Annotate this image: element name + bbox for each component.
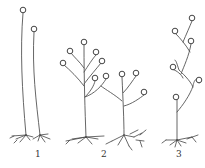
panel-1-sporangiophores — [10, 7, 50, 143]
diagram-canvas — [0, 0, 205, 168]
panel-3-sporangiophore — [162, 15, 202, 147]
panel-1-label: 1 — [35, 149, 41, 159]
panel-2-label: 2 — [101, 149, 107, 159]
panel-2-sporangiophores — [60, 39, 147, 150]
panel-3-label: 3 — [176, 149, 182, 159]
